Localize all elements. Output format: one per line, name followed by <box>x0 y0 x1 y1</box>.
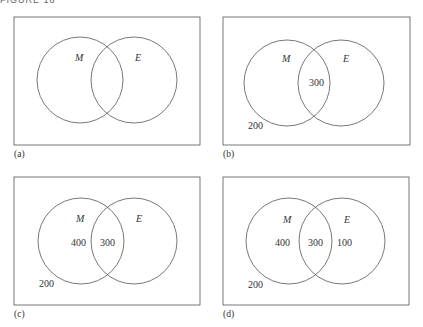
panel-b-set-label-e: E <box>342 53 349 64</box>
panel-c-outside-value: 200 <box>39 278 54 289</box>
panel-c-label: (c) <box>14 309 25 320</box>
panel-c-intersection-value: 300 <box>100 237 115 248</box>
panel-d-set-label-e: E <box>343 214 350 225</box>
panel-d-set-label-m: M <box>282 214 292 225</box>
panel-c-m-only-value: 400 <box>71 237 86 248</box>
panel-b-set-label-m: M <box>281 53 291 64</box>
panel-a-circle-e <box>91 37 177 123</box>
panel-d-intersection-value: 300 <box>308 237 323 248</box>
panel-d-outside-value: 200 <box>248 279 263 290</box>
panel-a-label: (a) <box>14 149 25 160</box>
panel-a-circle-m <box>37 37 123 123</box>
panel-b-intersection-value: 300 <box>309 77 324 88</box>
panel-d-label: (d) <box>223 309 234 320</box>
panel-a-set-label-m: M <box>74 52 84 63</box>
panel-d-m-only-value: 400 <box>275 237 290 248</box>
panel-a-set-label-e: E <box>134 52 141 63</box>
panel-c-set-label-e: E <box>135 213 142 224</box>
venn-diagram-figure: M E (a) M E 300 200 (b) M E 400 300 200 … <box>0 0 423 327</box>
panel-c-set-label-m: M <box>75 213 85 224</box>
panel-d-e-only-value: 100 <box>337 237 352 248</box>
panel-a-universe-box <box>14 17 200 145</box>
panel-b-label: (b) <box>223 149 234 160</box>
panel-b-outside-value: 200 <box>248 120 263 131</box>
